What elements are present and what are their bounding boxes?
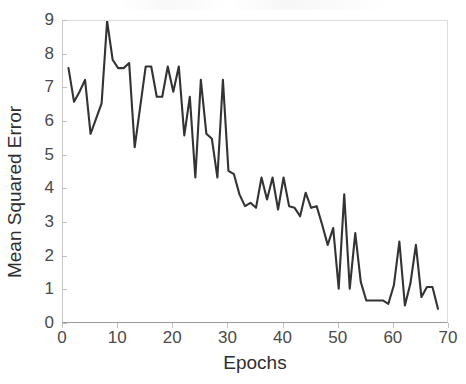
y-tick-label: 5	[28, 145, 54, 165]
y-tick-label: 8	[28, 44, 54, 64]
x-tick-label: 50	[321, 328, 355, 348]
x-tick-label: 10	[100, 328, 134, 348]
x-tick-label: 40	[266, 328, 300, 348]
x-tick-label: 20	[155, 328, 189, 348]
y-tick-label: 6	[28, 111, 54, 131]
x-tick-label: 30	[210, 328, 244, 348]
y-tick-mark	[62, 188, 67, 189]
x-tick-mark	[172, 323, 173, 328]
x-tick-mark	[227, 323, 228, 328]
x-tick-mark	[448, 323, 449, 328]
plot-area	[62, 20, 448, 323]
y-tick-mark	[62, 222, 67, 223]
y-tick-label: 4	[28, 178, 54, 198]
x-tick-mark	[393, 323, 394, 328]
y-tick-mark	[62, 54, 67, 55]
top-crop-artifact	[120, 0, 390, 10]
x-tick-label: 60	[376, 328, 410, 348]
y-axis-title: Mean Squared Error	[0, 0, 30, 384]
y-tick-label: 2	[28, 246, 54, 266]
x-tick-mark	[62, 323, 63, 328]
mse-line-series	[69, 21, 438, 309]
y-tick-label: 9	[28, 10, 54, 30]
y-tick-label: 1	[28, 279, 54, 299]
y-tick-mark	[62, 155, 67, 156]
y-tick-mark	[62, 87, 67, 88]
y-tick-mark	[62, 20, 67, 21]
chart-figure: Mean Squared Error 0123456789 0102030405…	[0, 0, 466, 384]
y-tick-mark	[62, 121, 67, 122]
x-axis-title: Epochs	[62, 352, 448, 374]
line-series-svg	[63, 21, 449, 324]
x-tick-label: 70	[431, 328, 465, 348]
x-tick-label: 0	[45, 328, 79, 348]
x-tick-mark	[338, 323, 339, 328]
x-tick-mark	[283, 323, 284, 328]
y-tick-mark	[62, 256, 67, 257]
y-tick-label: 3	[28, 212, 54, 232]
x-tick-mark	[117, 323, 118, 328]
y-tick-label: 7	[28, 77, 54, 97]
y-tick-mark	[62, 289, 67, 290]
